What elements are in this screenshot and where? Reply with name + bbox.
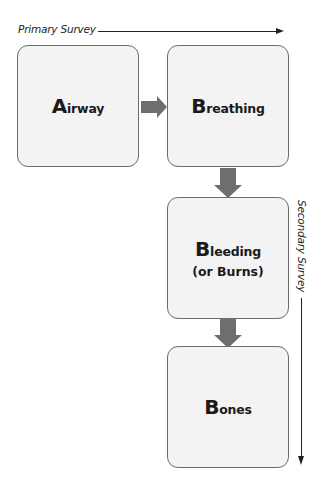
step-bones-box: Bones	[167, 346, 289, 468]
primary-survey-label: Primary Survey	[18, 23, 96, 35]
step-bleeding-subtitle: (or Burns)	[192, 264, 263, 279]
arrow-down-icon	[214, 168, 242, 198]
step-bleeding-box: Bleeding (or Burns)	[167, 197, 289, 319]
primary-survey-arrow-line	[98, 31, 278, 32]
arrow-right-icon	[141, 96, 167, 118]
step-breathing-box: Breathing	[167, 45, 289, 167]
step-bleeding-title: Bleeding	[195, 237, 261, 261]
step-bones-title: Bones	[204, 395, 252, 419]
secondary-survey-label: Secondary Survey	[296, 200, 308, 292]
step-airway-box: Airway	[17, 45, 139, 167]
secondary-survey-arrowhead-icon	[298, 456, 304, 465]
arrow-down-icon	[214, 318, 242, 348]
secondary-survey-arrow-line	[301, 298, 302, 458]
step-breathing-title: Breathing	[191, 94, 265, 118]
step-airway-title: Airway	[52, 94, 104, 118]
primary-survey-arrowhead-icon	[276, 28, 284, 34]
